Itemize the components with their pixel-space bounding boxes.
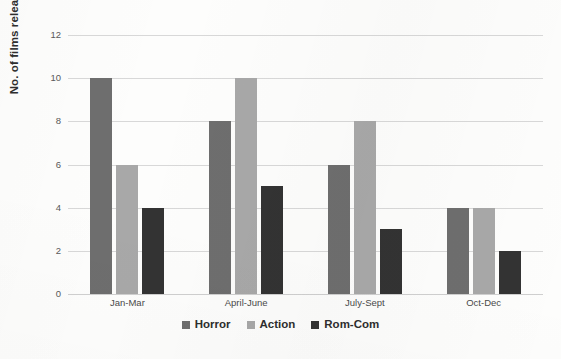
y-axis-tick-label: 0 (56, 289, 61, 299)
bar (142, 208, 164, 294)
legend-swatch-icon (182, 321, 190, 329)
bar (261, 186, 283, 294)
y-axis-tick-label: 12 (50, 30, 61, 40)
x-axis-labels: Jan-MarApril-JuneJuly-SeptOct-Dec (68, 298, 543, 314)
bar (235, 78, 257, 294)
bar (473, 208, 495, 294)
x-axis-tick-label: Oct-Dec (466, 298, 501, 308)
bars-layer (68, 35, 543, 294)
legend-swatch-icon (247, 321, 255, 329)
y-axis-tick-label: 6 (56, 160, 61, 170)
bar (90, 78, 112, 294)
x-axis-tick-label: April-June (225, 298, 268, 308)
bar-group (306, 35, 425, 294)
gridline (68, 294, 543, 295)
x-axis-tick-label: July-Sept (345, 298, 385, 308)
bar-group (68, 35, 187, 294)
y-axis-tick-label: 8 (56, 117, 61, 127)
bar (209, 121, 231, 294)
bar-chart: No. of films released 024681012 Jan-MarA… (0, 0, 561, 359)
legend-label: Horror (195, 319, 231, 331)
y-axis-title: No. of films released (8, 0, 30, 112)
bar-group (187, 35, 306, 294)
bar (447, 208, 469, 294)
legend-swatch-icon (311, 321, 319, 329)
legend-item-rom-com[interactable]: Rom-Com (311, 319, 379, 331)
chart-legend: HorrorActionRom-Com (0, 319, 561, 331)
bar (354, 121, 376, 294)
y-axis-tick-label: 4 (56, 203, 61, 213)
legend-item-horror[interactable]: Horror (182, 319, 231, 331)
x-axis-tick-label: Jan-Mar (110, 298, 145, 308)
plot-area: 024681012 (68, 35, 543, 294)
bar (116, 165, 138, 295)
legend-item-action[interactable]: Action (247, 319, 296, 331)
legend-label: Rom-Com (324, 319, 379, 331)
y-axis-tick-label: 2 (56, 246, 61, 256)
bar-group (424, 35, 543, 294)
bar (380, 229, 402, 294)
y-axis-tick-label: 10 (50, 73, 61, 83)
bar (499, 251, 521, 294)
bar (328, 165, 350, 295)
legend-label: Action (260, 319, 296, 331)
